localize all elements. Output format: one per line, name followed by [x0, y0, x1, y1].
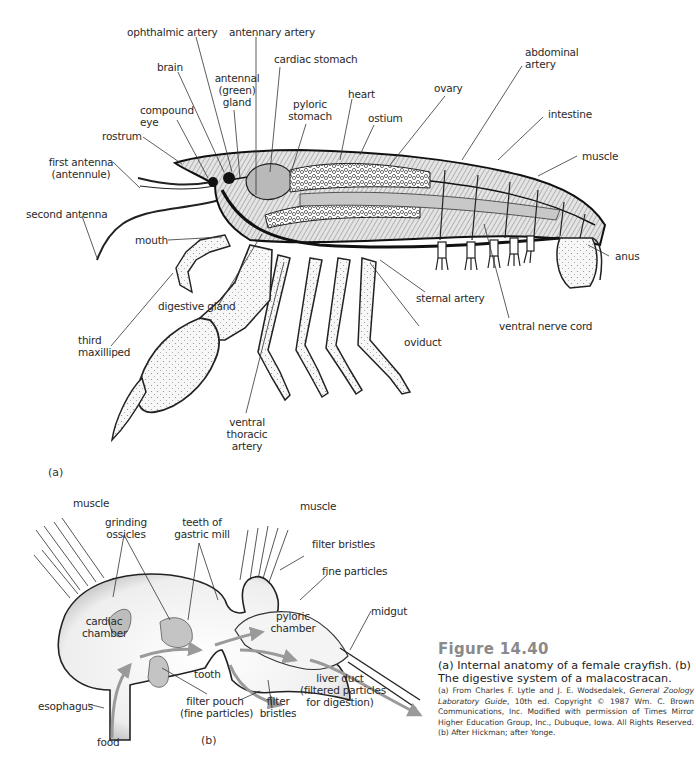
- label-antennal-gland-line2: (green): [212, 84, 262, 96]
- label-pyloric-chamber-line1: pyloric: [270, 610, 316, 622]
- label-antennal-gland-line3: gland: [212, 96, 262, 108]
- label-pyloric-stomach-line1: pyloric: [288, 98, 332, 110]
- label-mouth: mouth: [135, 234, 168, 246]
- label-grinding-ossicles: grinding ossicles: [102, 516, 150, 540]
- label-cardiac-chamber-line1: cardiac: [82, 615, 126, 627]
- label-filter-bristles-bottom: filter bristles: [258, 695, 298, 719]
- figure-source: (a) From Charles F. Lytle and J. E. Wods…: [438, 686, 694, 739]
- label-first-antenna: first antenna (antennule): [48, 156, 114, 180]
- label-filter-bristles-bottom-line1: filter: [258, 695, 298, 707]
- label-filter-bristles-bottom-line2: bristles: [258, 707, 298, 719]
- label-cardiac-stomach: cardiac stomach: [274, 53, 358, 65]
- label-antennal-gland-line1: antennal: [212, 72, 262, 84]
- label-food: food: [97, 736, 119, 748]
- label-third-maxilliped-line2: maxilliped: [78, 346, 130, 358]
- label-abdominal-artery: abdominal artery: [525, 46, 579, 70]
- label-cardiac-chamber: cardiac chamber: [82, 615, 126, 639]
- label-filter-pouch-line2: (fine particles): [180, 707, 250, 719]
- label-liver-duct: liver duct (filtered particles for diges…: [300, 672, 380, 708]
- label-ventral-thoracic-artery: ventral thoracic artery: [222, 416, 272, 452]
- label-teeth-line1: teeth of: [172, 516, 232, 528]
- label-intestine: intestine: [548, 108, 592, 120]
- label-ventral-nerve-cord: ventral nerve cord: [499, 320, 592, 332]
- label-liver-duct-line2: (filtered particles: [300, 684, 380, 696]
- label-ostium: ostium: [368, 112, 403, 124]
- label-filter-pouch: filter pouch (fine particles): [180, 695, 250, 719]
- label-pyloric-chamber: pyloric chamber: [270, 610, 316, 634]
- label-brain: brain: [157, 61, 183, 73]
- label-first-antenna-line1: first antenna: [48, 156, 114, 168]
- label-liver-duct-line3: for digestion): [300, 696, 380, 708]
- label-compound-eye: compound eye: [140, 104, 194, 128]
- panel-a-tag: (a): [48, 466, 63, 479]
- label-abdominal-artery-line2: artery: [525, 58, 579, 70]
- label-ventral-thoracic-artery-line1: ventral: [222, 416, 272, 428]
- label-heart: heart: [348, 88, 375, 100]
- label-cardiac-chamber-line2: chamber: [82, 627, 126, 639]
- label-midgut: midgut: [371, 605, 407, 617]
- label-digestive-gland: digestive gland: [158, 300, 236, 312]
- label-pyloric-stomach-line2: stomach: [288, 110, 332, 122]
- panel-b-tag: (b): [201, 734, 217, 747]
- label-teeth-of-gastric-mill: teeth of gastric mill: [172, 516, 232, 540]
- label-liver-duct-line1: liver duct: [300, 672, 380, 684]
- label-esophagus: esophagus: [38, 700, 93, 712]
- label-grinding-ossicles-line2: ossicles: [102, 528, 150, 540]
- label-ophthalmic-artery: ophthalmic artery: [127, 26, 218, 38]
- label-filter-pouch-line1: filter pouch: [180, 695, 250, 707]
- label-abdominal-artery-line1: abdominal: [525, 46, 579, 58]
- figure-source-prefix: (a) From Charles F. Lytle and J. E. Wods…: [438, 686, 630, 695]
- label-pyloric-stomach: pyloric stomach: [288, 98, 332, 122]
- label-muscle-right: muscle: [300, 500, 336, 512]
- label-antennary-artery: antennary artery: [229, 26, 315, 38]
- label-compound-eye-line1: compound: [140, 104, 194, 116]
- label-muscle: muscle: [582, 150, 618, 162]
- label-filter-bristles-top: filter bristles: [312, 538, 375, 550]
- label-antennal-gland: antennal (green) gland: [212, 72, 262, 108]
- label-anus: anus: [615, 250, 639, 262]
- label-first-antenna-line2: (antennule): [48, 168, 114, 180]
- figure-caption: (a) Internal anatomy of a female crayfis…: [438, 659, 694, 685]
- label-third-maxilliped: third maxilliped: [78, 334, 130, 358]
- label-rostrum: rostrum: [102, 130, 142, 142]
- label-grinding-ossicles-line1: grinding: [102, 516, 150, 528]
- label-fine-particles: fine particles: [322, 565, 387, 577]
- label-compound-eye-line2: eye: [140, 116, 194, 128]
- label-ventral-thoracic-artery-line2: thoracic: [222, 428, 272, 440]
- label-third-maxilliped-line1: third: [78, 334, 130, 346]
- label-pyloric-chamber-line2: chamber: [270, 622, 316, 634]
- label-muscle-left: muscle: [73, 497, 109, 509]
- label-tooth: tooth: [194, 668, 221, 680]
- label-second-antenna: second antenna: [26, 208, 107, 220]
- label-sternal-artery: sternal artery: [416, 292, 485, 304]
- label-ventral-thoracic-artery-line3: artery: [222, 440, 272, 452]
- figure-number: Figure 14.40: [438, 640, 549, 658]
- label-oviduct: oviduct: [404, 336, 441, 348]
- label-teeth-line2: gastric mill: [172, 528, 232, 540]
- crayfish-drawing: [97, 150, 605, 440]
- label-ovary: ovary: [434, 82, 463, 94]
